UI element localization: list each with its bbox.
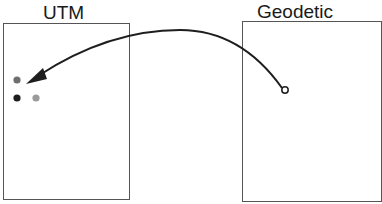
arrowhead-icon	[26, 68, 47, 84]
open-circle	[282, 87, 288, 93]
gray-point	[13, 76, 20, 83]
black-point	[13, 94, 20, 101]
transform-arrow	[38, 30, 282, 88]
light-gray-point	[32, 94, 39, 101]
